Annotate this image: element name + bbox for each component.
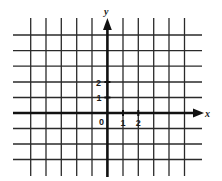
x-axis-label: x	[204, 108, 210, 119]
y-tick-1-label: 1	[97, 93, 102, 103]
y-tick-2-label: 2	[96, 78, 101, 88]
coordinate-grid: y x 0 1 2 1 2	[0, 0, 222, 181]
x-tick-1-label: 1	[121, 118, 126, 128]
y-axis-arrow-icon	[103, 18, 112, 30]
x-tick-2-label: 2	[136, 118, 141, 128]
y-axis-label: y	[103, 6, 109, 17]
x-axis-arrow-icon	[193, 109, 204, 118]
origin-label: 0	[99, 117, 104, 127]
